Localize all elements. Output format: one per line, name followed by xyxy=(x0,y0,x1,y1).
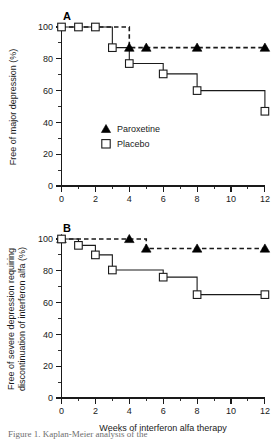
panel-b-chart: B Free of severe depression requiring di… xyxy=(0,212,277,442)
marker-open-square-icon xyxy=(193,87,201,95)
marker-open-square-icon xyxy=(92,23,100,31)
panel-a-ytick-60: 60 xyxy=(43,86,53,96)
marker-open-square-icon xyxy=(75,242,83,250)
legend-open-square-icon xyxy=(102,140,110,148)
figure-container: A Free of major depression (%) 0 xyxy=(0,0,277,442)
panel-b-xtick-0: 0 xyxy=(59,406,64,416)
panel-a-ytick-20: 20 xyxy=(43,149,53,159)
legend-filled-triangle-icon xyxy=(101,125,110,133)
marker-open-square-icon xyxy=(261,291,269,299)
series-line-placebo xyxy=(62,239,265,295)
panel-b-xtick-10: 10 xyxy=(226,406,236,416)
panel-b-letter: B xyxy=(63,222,71,234)
panel-b-xtick-2: 2 xyxy=(93,406,98,416)
panel-b-series-group xyxy=(57,234,270,298)
panel-b-ytick-0: 0 xyxy=(48,393,53,403)
panel-a-y-ticks xyxy=(56,27,62,186)
panel-b-ytick-20: 20 xyxy=(43,361,53,371)
panel-b-xtick-12: 12 xyxy=(260,406,270,416)
panel-b-xtick-6: 6 xyxy=(161,406,166,416)
legend-label-placebo: Placebo xyxy=(117,139,150,149)
marker-open-square-icon xyxy=(75,23,83,31)
panel-a-ytick-80: 80 xyxy=(43,54,53,64)
panel-a-letter: A xyxy=(63,10,71,22)
panel-b-ytick-60: 60 xyxy=(43,298,53,308)
panel-a-y-axis-title: Free of major depression (%) xyxy=(8,49,18,166)
marker-open-square-icon xyxy=(261,107,269,115)
panel-a-chart: A Free of major depression (%) 0 xyxy=(0,0,277,212)
panel-a-ytick-40: 40 xyxy=(43,118,53,128)
caption-strip: Figure 1. Kaplan-Meier analysis of the xyxy=(0,430,277,442)
marker-open-square-icon xyxy=(92,251,100,259)
panel-a: A Free of major depression (%) 0 xyxy=(0,0,277,212)
panel-b-xtick-8: 8 xyxy=(195,406,200,416)
panel-a-ytick-0: 0 xyxy=(48,181,53,191)
caption-partial-text: Figure 1. Kaplan-Meier analysis of the xyxy=(8,430,147,439)
panel-a-x-ticks xyxy=(62,186,265,192)
marker-open-square-icon xyxy=(193,291,201,299)
panel-a-xtick-10: 10 xyxy=(226,194,236,204)
series-line-placebo xyxy=(62,27,265,111)
panel-a-xtick-4: 4 xyxy=(127,194,132,204)
panel-a-xtick-0: 0 xyxy=(59,194,64,204)
marker-filled-triangle-icon xyxy=(192,244,202,252)
panel-b-ytick-100: 100 xyxy=(38,234,53,244)
panel-b: B Free of severe depression requiring di… xyxy=(0,212,277,424)
panel-a-xtick-8: 8 xyxy=(195,194,200,204)
panel-a-xtick-6: 6 xyxy=(161,194,166,204)
panel-a-xtick-12: 12 xyxy=(260,194,270,204)
panel-b-y-axis-title-line2: discontinuation of interferon alfa (%) xyxy=(17,247,27,391)
marker-open-square-icon xyxy=(159,273,167,281)
panel-a-series-group xyxy=(58,23,270,115)
marker-filled-triangle-icon xyxy=(260,244,270,252)
marker-open-square-icon xyxy=(58,23,66,31)
marker-open-square-icon xyxy=(109,44,117,52)
series-line-paroxetine xyxy=(62,239,265,249)
panel-a-ytick-100: 100 xyxy=(38,22,53,32)
panel-a-xtick-2: 2 xyxy=(93,194,98,204)
panel-b-y-ticks xyxy=(56,239,62,398)
panel-b-y-axis-title-line1: Free of severe depression requiring xyxy=(6,248,16,390)
panel-b-ytick-40: 40 xyxy=(43,330,53,340)
panel-b-xtick-4: 4 xyxy=(127,406,132,416)
legend-label-paroxetine: Paroxetine xyxy=(117,124,160,134)
marker-open-square-icon xyxy=(159,70,167,78)
marker-open-square-icon xyxy=(58,235,66,243)
panel-a-legend: Paroxetine Placebo xyxy=(101,124,160,149)
marker-open-square-icon xyxy=(126,60,134,68)
panel-b-x-ticks xyxy=(62,398,265,404)
panel-b-ytick-80: 80 xyxy=(43,266,53,276)
marker-open-square-icon xyxy=(109,266,117,274)
